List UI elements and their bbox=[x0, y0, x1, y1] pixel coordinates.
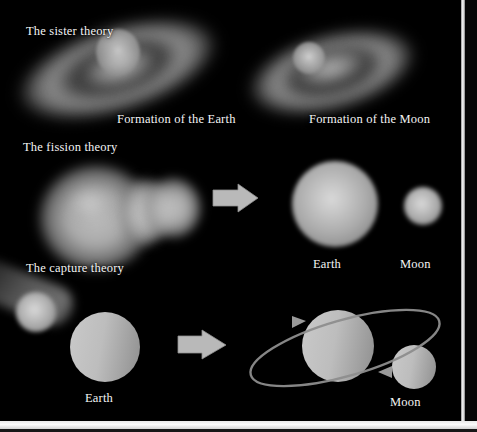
orbit-ellipse-icon bbox=[243, 294, 447, 402]
right-block-arrow-icon-capture bbox=[178, 330, 226, 359]
orbit-direction-arrowhead-right bbox=[378, 366, 392, 378]
page-edge-band-bottom bbox=[0, 421, 477, 429]
figure-canvas: The sister theory Formation of the Earth… bbox=[0, 0, 477, 432]
page-edge-gutter-right bbox=[465, 0, 477, 424]
orbit-direction-arrowhead-left bbox=[292, 316, 306, 328]
vector-overlay bbox=[0, 0, 477, 432]
right-block-arrow-icon-fission bbox=[213, 184, 258, 212]
